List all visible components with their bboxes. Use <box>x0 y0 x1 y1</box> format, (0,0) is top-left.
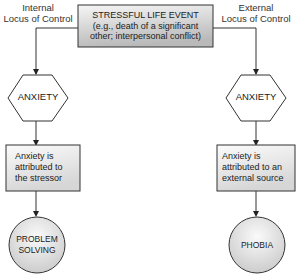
root-event-example-2: other; interpersonal conflict) <box>78 31 213 42</box>
left-outcome-text: PROBLEM SOLVING <box>9 234 65 255</box>
right-outcome-text: PHOBIA <box>229 240 285 251</box>
connector-left-box-to-outcome <box>33 191 39 217</box>
connector-right-hex-to-box <box>253 121 259 146</box>
left-attribution-text: Anxiety is attributed to the stressor <box>15 151 79 184</box>
left-outcome-line2: SOLVING <box>9 245 65 256</box>
left-heading-line1: Internal <box>0 2 76 13</box>
root-event-example-1: (e.g., death of a significant <box>78 21 213 32</box>
right-attribution-text: Anxiety is attributed to an external sou… <box>222 151 294 184</box>
left-attribution-line2: attributed to <box>15 162 79 173</box>
left-heading-line2: Locus of Control <box>0 13 76 24</box>
right-locus-heading: External Locus of Control <box>215 2 297 24</box>
right-attribution-line2: attributed to an <box>222 162 294 173</box>
right-outcome-line1: PHOBIA <box>229 240 285 251</box>
root-event-title: STRESSFUL LIFE EVENT <box>78 10 213 21</box>
connector-root-left <box>33 28 78 75</box>
connector-root-right <box>213 28 259 75</box>
left-locus-heading: Internal Locus of Control <box>0 2 76 24</box>
right-attribution-line1: Anxiety is <box>222 151 294 162</box>
left-attribution-line3: the stressor <box>15 173 79 184</box>
right-attribution-line3: external source <box>222 173 294 184</box>
root-event-text: STRESSFUL LIFE EVENT (e.g., death of a s… <box>78 10 213 42</box>
left-anxiety-label: ANXIETY <box>8 92 68 103</box>
right-heading-line2: Locus of Control <box>215 13 297 24</box>
left-outcome-line1: PROBLEM <box>9 234 65 245</box>
connector-right-box-to-outcome <box>253 191 259 217</box>
right-anxiety-label: ANXIETY <box>226 92 286 103</box>
right-heading-line1: External <box>215 2 297 13</box>
left-attribution-line1: Anxiety is <box>15 151 79 162</box>
connector-left-hex-to-box <box>33 121 39 146</box>
